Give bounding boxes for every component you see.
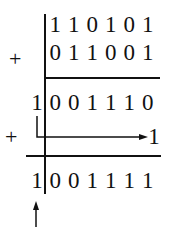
digit: 0 [46, 168, 65, 194]
sum-line-2 [26, 155, 161, 157]
end-around-carry-digit: 1 [148, 124, 160, 150]
digit: 1 [139, 168, 158, 194]
result-row: 0 0 1 1 1 1 [46, 168, 157, 194]
end-around-carry-arrow-icon [0, 0, 172, 236]
digit: 0 [65, 168, 84, 194]
digit: 1 [83, 168, 102, 194]
digit: 1 [120, 168, 139, 194]
digit: 1 [102, 168, 121, 194]
result-carry-digit: 1 [31, 168, 43, 194]
